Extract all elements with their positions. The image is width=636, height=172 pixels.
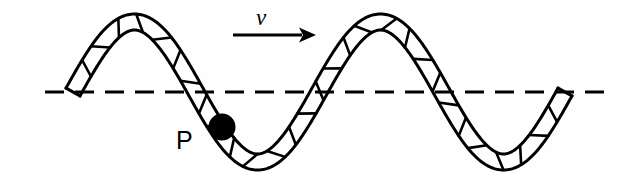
rope-hatch-line bbox=[91, 46, 110, 47]
rope-hatch-line bbox=[520, 145, 521, 164]
rope-hatch-line bbox=[413, 59, 433, 60]
rope-hatch-line bbox=[118, 18, 119, 37]
wave-figure: v P bbox=[0, 0, 636, 172]
wave-diagram-svg bbox=[0, 0, 636, 172]
rope-hatch-line bbox=[529, 135, 548, 136]
point-p-marker bbox=[209, 114, 236, 141]
point-p-label: P bbox=[176, 128, 193, 153]
velocity-label: v bbox=[256, 6, 266, 29]
